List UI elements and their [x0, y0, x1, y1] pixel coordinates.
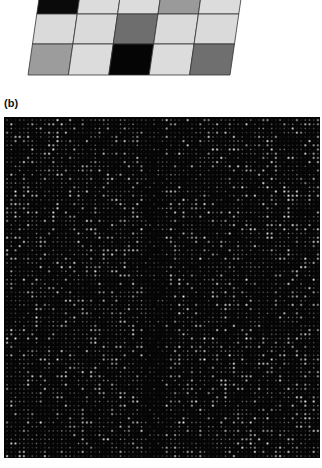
panel-a-grid-diagram — [0, 0, 322, 90]
grid-cell — [28, 44, 73, 75]
grid-cell — [154, 14, 199, 44]
panel-b-microarray-image — [4, 117, 320, 458]
grid-cell — [73, 14, 118, 44]
perspective-grid — [0, 0, 322, 90]
grid-cell — [109, 44, 154, 75]
grid-cell — [194, 14, 239, 44]
grid-cell — [118, 0, 163, 14]
grid-cell — [190, 44, 235, 75]
grid-cell — [68, 44, 113, 75]
grid-cell — [198, 0, 243, 14]
grid-cell — [77, 0, 122, 14]
grid-cell — [32, 14, 77, 44]
grid-cell — [158, 0, 203, 14]
panel-b-label: (b) — [4, 97, 18, 109]
grid-cell — [113, 14, 158, 44]
microarray-spots — [4, 117, 320, 458]
grid-cell — [149, 44, 194, 75]
grid-cell — [37, 0, 82, 14]
